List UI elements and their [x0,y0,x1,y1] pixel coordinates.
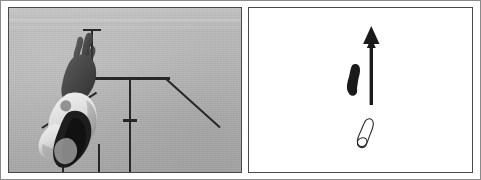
figure-container [0,0,481,180]
post-t-cap [83,29,101,31]
footprint-direction-diagram [248,7,473,173]
high-jump-photograph [8,7,242,173]
photograph-light-streak [9,26,241,30]
filled-footprint [347,64,360,96]
outlined-footprint [357,119,373,148]
athlete-figure [29,32,129,173]
center-vertical-post [129,78,131,173]
photograph-light-streak [9,19,241,23]
direction-arrow [363,26,379,105]
